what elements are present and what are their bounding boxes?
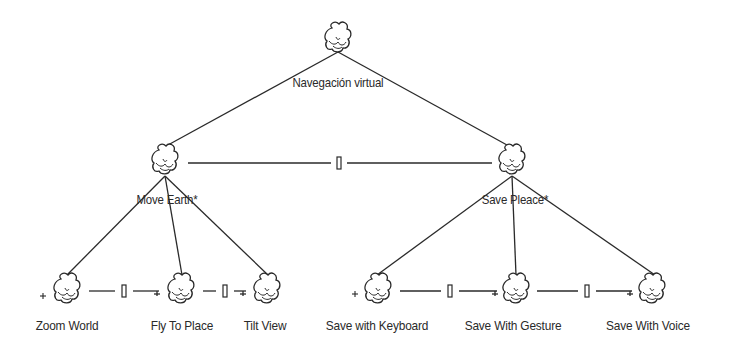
zoom-world-node-icon[interactable]: [54, 273, 80, 303]
root-node-label: Navegación virtual: [293, 75, 384, 90]
tilt-view-label: Tilt View: [244, 318, 287, 333]
root-node-icon[interactable]: [325, 22, 351, 52]
save-with-keyboard-label: Save with Keyboard: [326, 318, 429, 333]
save-with-gesture-label: Save With Gesture: [465, 318, 562, 333]
plus-prefix-icons: [40, 291, 358, 299]
save-with-keyboard-node-icon[interactable]: [365, 273, 391, 303]
fly-to-place-label: Fly To Place: [151, 318, 213, 333]
task-tree-diagram: [0, 0, 736, 351]
move-earth-label: Move Earth*: [136, 192, 197, 207]
save-pleace-node-icon[interactable]: [499, 144, 525, 174]
save-with-gesture-node-icon[interactable]: [503, 273, 529, 303]
save-with-voice-label: Save With Voice: [606, 318, 690, 333]
zoom-world-label: Zoom World: [36, 318, 99, 333]
tilt-view-node-icon[interactable]: [254, 273, 280, 303]
fly-to-place-node-icon[interactable]: [168, 273, 194, 303]
save-pleace-label: Save Pleace*: [482, 192, 549, 207]
save-with-voice-node-icon[interactable]: [639, 273, 665, 303]
subtask-choice-operator: [188, 157, 492, 169]
move-earth-node-icon[interactable]: [152, 144, 178, 174]
